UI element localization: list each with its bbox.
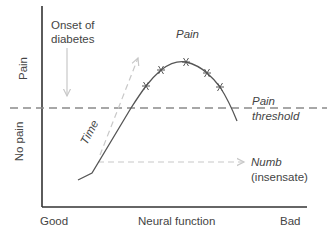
curve-markers xyxy=(142,58,224,91)
y-label-no-pain: No pain xyxy=(13,122,26,162)
threshold-label-line1: Pain xyxy=(252,95,275,108)
numb-label-line2: (insensate) xyxy=(251,171,308,184)
onset-label-line2: diabetes xyxy=(51,33,94,46)
x-label-good: Good xyxy=(40,215,68,228)
threshold-label-line2: threshold xyxy=(252,110,299,123)
numb-label-line1: Numb xyxy=(251,156,282,169)
pain-peak-label: Pain xyxy=(176,28,199,41)
onset-label-line1: Onset of xyxy=(51,19,94,32)
x-label-neural-function: Neural function xyxy=(138,215,215,228)
y-label-pain: Pain xyxy=(17,57,30,80)
x-label-bad: Bad xyxy=(280,215,300,228)
